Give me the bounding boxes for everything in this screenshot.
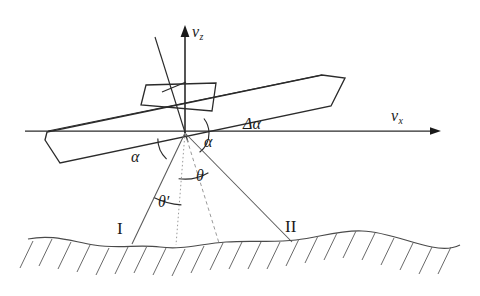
radar-geometry-diagram bbox=[0, 0, 480, 296]
terrain bbox=[20, 231, 460, 276]
label-delta-alpha: Δα bbox=[243, 116, 261, 132]
label-vx: vx bbox=[391, 108, 403, 126]
label-footprint-one: I bbox=[117, 220, 123, 237]
beam-right-edge bbox=[185, 133, 292, 242]
horizontal-axis-vx bbox=[25, 127, 441, 135]
aircraft-body bbox=[45, 75, 345, 163]
sensor-pod bbox=[141, 83, 216, 111]
normal-axis-tick bbox=[162, 82, 186, 92]
vz-arrowhead bbox=[181, 25, 190, 37]
vertical-axis-vz bbox=[181, 25, 190, 136]
label-theta: θ bbox=[196, 168, 204, 184]
beam-left-edge bbox=[132, 133, 185, 244]
label-footprint-two: II bbox=[285, 218, 296, 235]
terrain-profile bbox=[28, 231, 460, 249]
label-vz: vz bbox=[192, 24, 203, 42]
vx-arrowhead bbox=[430, 127, 441, 135]
body-normal-axis bbox=[155, 37, 188, 142]
label-theta-prime: θ′ bbox=[158, 194, 169, 210]
label-alpha-left: α bbox=[131, 149, 139, 165]
label-alpha-right: α bbox=[204, 134, 212, 150]
terrain-hatching bbox=[20, 231, 451, 276]
